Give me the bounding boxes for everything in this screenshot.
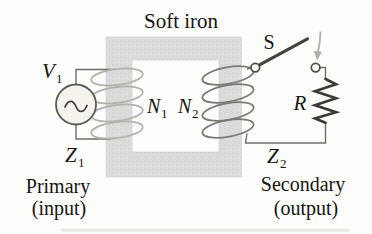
switch-right-terminal	[311, 63, 320, 72]
primary-caption-line1: Primary	[26, 175, 90, 198]
secondary-bottom-wire	[246, 123, 326, 144]
soft-iron-label: Soft iron	[144, 9, 219, 33]
scan-artifact	[60, 229, 350, 232]
secondary-impedance-label: Z 2	[267, 144, 287, 171]
resistor-zigzag	[315, 79, 336, 123]
switch-left-terminal	[251, 63, 260, 72]
source-voltage-label: V 1	[42, 59, 63, 86]
secondary-turns-label: N 2	[177, 95, 199, 121]
primary-impedance-label: Z 1	[65, 143, 85, 170]
resistor-label: R	[293, 91, 307, 115]
primary-turns-label: N 1	[146, 95, 168, 121]
primary-caption-line2: (input)	[32, 197, 86, 220]
transformer-diagram: Soft iron V 1 Z 1 N 1 N 2 Z 2 S R Primar…	[0, 0, 372, 234]
secondary-caption-line1: Secondary	[261, 173, 345, 196]
closing-direction-arrow	[314, 32, 322, 61]
resistor-top-lead	[320, 68, 326, 80]
transformer-figure: Soft iron V 1 Z 1 N 1 N 2 Z 2 S R Primar…	[0, 0, 372, 234]
soft-iron-core	[106, 37, 242, 177]
switch-label: S	[263, 31, 274, 53]
arrow-shaft	[318, 32, 321, 53]
secondary-caption-line2: (output)	[274, 197, 338, 220]
arrow-head-icon	[314, 51, 322, 61]
